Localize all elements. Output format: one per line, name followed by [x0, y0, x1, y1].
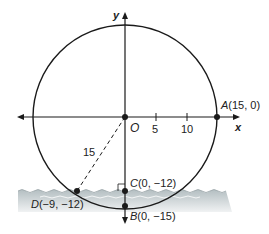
point-b-label: B(0, −15)	[130, 211, 176, 222]
point-c-label: C(0, −12)	[130, 178, 176, 189]
point-a	[214, 114, 220, 120]
origin-label: O	[130, 122, 139, 134]
y-axis-up-arrow	[122, 12, 128, 19]
point-o	[122, 114, 128, 120]
y-axis-label: y	[113, 10, 119, 21]
point-a-label: A(15, 0)	[221, 100, 260, 111]
tick-label-10: 10	[181, 124, 193, 135]
x-axis-label: x	[235, 122, 241, 133]
point-d-label: D(−9, −12)	[31, 199, 84, 210]
tick-label-5: 5	[152, 124, 158, 135]
point-c	[122, 188, 128, 194]
x-axis-right-arrow	[233, 114, 240, 120]
x-axis-left-arrow	[17, 114, 24, 120]
point-d	[74, 188, 80, 194]
y-axis-down-arrow	[122, 217, 128, 224]
radius-label: 15	[83, 147, 95, 158]
point-b	[122, 203, 128, 209]
